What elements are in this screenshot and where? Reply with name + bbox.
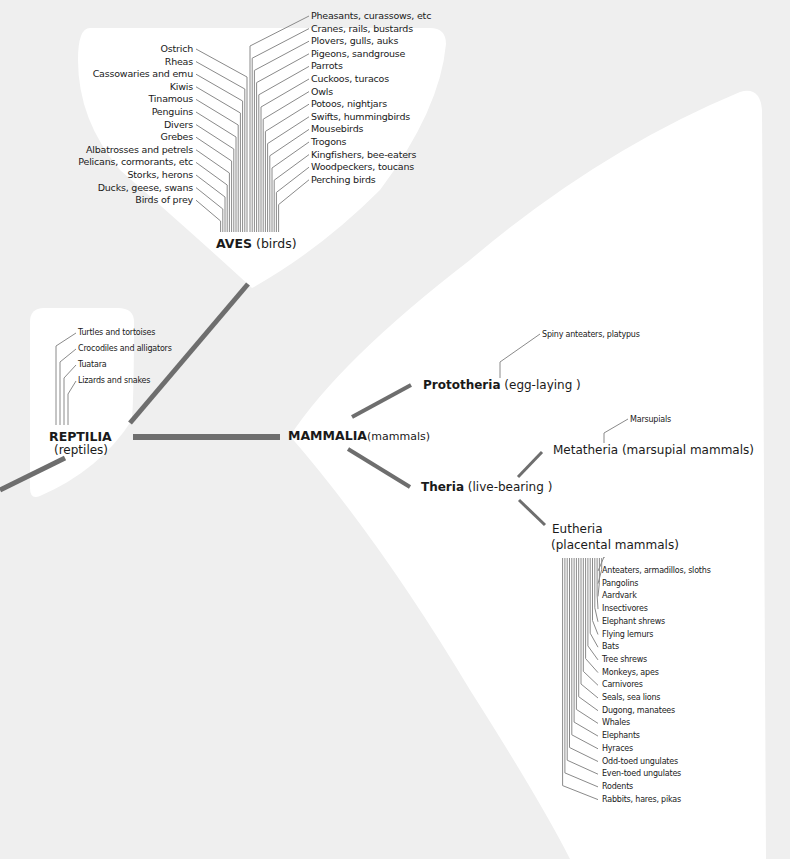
reptilia-member: Lizards and snakes <box>78 375 150 387</box>
prototheria-common: (egg-laying ) <box>504 378 580 392</box>
aves-right-item: Woodpeckers, toucans <box>311 161 414 173</box>
eutheria-member: Pangolins <box>602 578 638 590</box>
aves-right-item: Kingfishers, bee-eaters <box>311 149 416 161</box>
eutheria-member: Elephants <box>602 730 640 742</box>
reptilia-member: Turtles and tortoises <box>78 327 155 339</box>
aves-right-item: Parrots <box>311 60 343 72</box>
aves-right-item: Swifts, hummingbirds <box>311 111 410 123</box>
theria-name: Theria <box>421 480 464 494</box>
prototheria-member: Spiny anteaters, platypus <box>542 329 640 341</box>
aves-common: (birds) <box>256 236 297 251</box>
metatheria-label: Metatheria (marsupial mammals) <box>553 443 754 458</box>
aves-left-item: Grebes <box>160 131 193 143</box>
eutheria-member: Elephant shrews <box>602 616 665 628</box>
eutheria-member: Rabbits, hares, pikas <box>602 794 681 806</box>
aves-right-item: Owls <box>311 86 333 98</box>
aves-left-item: Pelicans, cormorants, etc <box>78 156 193 168</box>
eutheria-member: Anteaters, armadillos, sloths <box>602 565 711 577</box>
aves-right-item: Potoos, nightjars <box>311 98 387 110</box>
aves-left-item: Cassowaries and emu <box>93 68 193 80</box>
aves-right-item: Trogons <box>311 136 346 148</box>
reptilia-name-text: REPTILIA <box>49 429 112 444</box>
prototheria-name: Prototheria <box>423 378 500 392</box>
eutheria-member: Seals, sea lions <box>602 692 660 704</box>
mammalia-name: MAMMALIA <box>288 428 367 443</box>
eutheria-member: Monkeys, apes <box>602 667 659 679</box>
aves-left-item: Rheas <box>165 56 193 68</box>
prototheria-label: Prototheria (egg-laying ) <box>423 378 581 393</box>
aves-label: AVES (birds) <box>216 236 297 251</box>
eutheria-member: Tree shrews <box>602 654 647 666</box>
mammalia-label: MAMMALIA(mammals) <box>288 428 430 444</box>
eutheria-member: Dugong, manatees <box>602 705 675 717</box>
aves-right-item: Perching birds <box>311 174 375 186</box>
eutheria-member: Hyraces <box>602 743 633 755</box>
metatheria-member: Marsupials <box>630 414 671 426</box>
eutheria-member: Whales <box>602 717 630 729</box>
aves-right-item: Cuckoos, turacos <box>311 73 389 85</box>
eutheria-name: Eutheria <box>552 522 603 537</box>
aves-left-item: Ducks, geese, swans <box>98 182 193 194</box>
eutheria-member: Aardvark <box>602 590 637 602</box>
reptilia-member: Crocodiles and alligators <box>78 343 172 355</box>
eutheria-member: Insectivores <box>602 603 648 615</box>
eutheria-member: Bats <box>602 641 619 653</box>
mammalia-common: (mammals) <box>367 430 430 443</box>
aves-left-item: Kiwis <box>170 81 193 93</box>
aves-right-item: Plovers, gulls, auks <box>311 35 398 47</box>
reptilia-name: REPTILIA <box>49 429 112 444</box>
eutheria-member: Odd-toed ungulates <box>602 756 678 768</box>
eutheria-member: Flying lemurs <box>602 629 653 641</box>
aves-left-item: Albatrosses and petrels <box>86 144 193 156</box>
eutheria-member: Carnivores <box>602 679 643 691</box>
reptilia-member: Tuatara <box>78 359 106 371</box>
aves-right-item: Cranes, rails, bustards <box>311 23 413 35</box>
aves-left-item: Tinamous <box>149 93 193 105</box>
aves-left-item: Penguins <box>152 106 193 118</box>
theria-label: Theria (live-bearing ) <box>421 480 552 495</box>
aves-left-item: Storks, herons <box>127 169 193 181</box>
aves-name: AVES <box>216 236 252 251</box>
aves-left-item: Birds of prey <box>135 194 193 206</box>
eutheria-member: Even-toed ungulates <box>602 768 681 780</box>
theria-common: (live-bearing ) <box>468 480 553 494</box>
aves-left-item: Divers <box>164 119 193 131</box>
reptilia-common: (reptiles) <box>54 443 108 458</box>
aves-right-item: Pigeons, sandgrouse <box>311 48 405 60</box>
aves-right-item: Pheasants, curassows, etc <box>311 10 431 22</box>
aves-left-item: Ostrich <box>160 43 193 55</box>
eutheria-member: Rodents <box>602 781 633 793</box>
aves-right-item: Mousebirds <box>311 123 363 135</box>
eutheria-common: (placental mammals) <box>551 538 679 553</box>
